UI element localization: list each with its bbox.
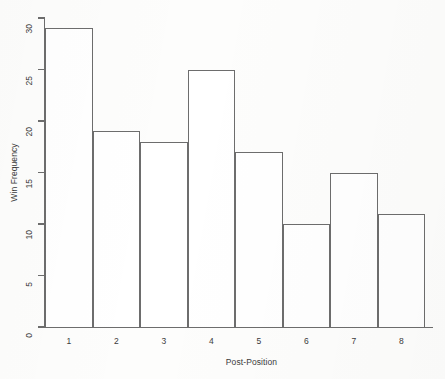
y-axis-tick [38,172,44,173]
x-axis-tick-label: 7 [330,336,378,346]
y-axis-tick [38,223,44,224]
bar [283,224,331,327]
y-axis-tick [38,275,44,276]
y-axis-tick-label: 15 [0,168,36,178]
x-axis-title: Post-Position [0,357,445,367]
y-axis-tick-label-text: 10 [25,230,34,239]
x-axis-tick-label: 2 [93,336,141,346]
y-axis-tick-label-text: 25 [25,76,34,85]
plot-area [45,18,425,327]
y-axis-tick [38,326,44,327]
y-axis-tick-label: 20 [0,116,36,126]
x-axis-tick-label: 6 [283,336,331,346]
y-axis-tick-label-text: 5 [25,282,34,287]
x-axis-tick-label: 1 [45,336,93,346]
bar [45,28,93,327]
y-axis-tick-label: 10 [0,219,36,229]
y-axis-tick-label: 30 [0,13,36,23]
y-axis-tick-label-text: 15 [25,179,34,188]
y-axis-tick-label-text: 0 [25,333,34,338]
bar [378,214,426,327]
bar [140,142,188,327]
bar [330,173,378,328]
bar [93,131,141,327]
y-axis-tick-label: 25 [0,65,36,75]
x-axis-tick-label: 5 [235,336,283,346]
y-axis-tick [38,17,44,18]
y-axis-tick-label-text: 20 [25,127,34,136]
y-axis-tick-label: 0 [0,322,36,332]
y-axis-tick [38,120,44,121]
x-axis-tick-label: 4 [188,336,236,346]
bar [188,70,236,328]
bar [235,152,283,327]
y-axis-tick-label-text: 30 [25,24,34,33]
x-axis-tick-label: 8 [378,336,426,346]
y-axis-tick [38,69,44,70]
histogram-chart: Win Frequency 051015202530 12345678 Post… [0,0,445,379]
y-axis-tick-label: 5 [0,271,36,281]
x-axis-tick-label: 3 [140,336,188,346]
